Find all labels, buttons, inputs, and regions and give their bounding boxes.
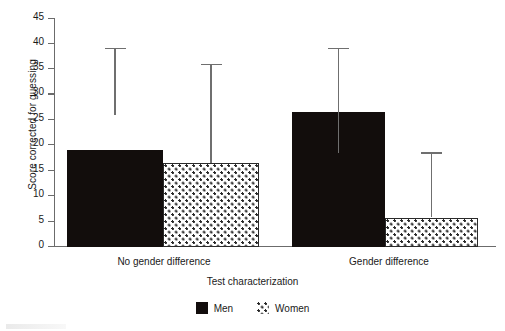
error-bar-women-gender-difference: [431, 152, 432, 217]
y-tick-35: 35: [48, 68, 54, 69]
y-tick-label-5: 5: [38, 214, 44, 225]
y-tick-label-15: 15: [33, 163, 44, 174]
error-bar-women-no-gender-difference: [210, 64, 211, 163]
y-tick-45: 45: [48, 18, 54, 19]
chart-legend: Men Women: [0, 302, 505, 314]
y-tick-25: 25: [48, 119, 54, 120]
legend-label-women: Women: [275, 303, 309, 314]
x-axis-title: Test characterization: [0, 276, 505, 287]
error-bar-cap-women-gender-difference: [421, 152, 442, 153]
bar-chart-figure: Score corrected for guessing 0 5 10 15 2…: [0, 0, 505, 331]
y-tick-5: 5: [48, 221, 54, 222]
y-axis-line: [54, 18, 55, 247]
caption-fragment: [6, 324, 66, 329]
x-category-label-no-gender-difference: No gender difference: [117, 256, 210, 267]
legend-label-men: Men: [214, 303, 233, 314]
bar-women-no-gender-difference: [163, 163, 259, 247]
y-tick-label-35: 35: [33, 61, 44, 72]
error-bar-cap-men-gender-difference: [328, 48, 349, 49]
y-tick-15: 15: [48, 170, 54, 171]
plot-area: 0 5 10 15 20 25 30 35 40 45: [54, 18, 496, 247]
y-tick-label-10: 10: [33, 188, 44, 199]
error-bar-men-no-gender-difference: [114, 48, 115, 115]
legend-swatch-women-icon: [257, 302, 269, 314]
y-tick-label-25: 25: [33, 112, 44, 123]
legend-item-women: Women: [257, 302, 309, 314]
y-tick-10: 10: [48, 195, 54, 196]
error-bar-cap-men-no-gender-difference: [105, 48, 126, 49]
y-tick-20: 20: [48, 144, 54, 145]
y-tick-0: 0: [48, 246, 54, 247]
y-tick-label-20: 20: [33, 137, 44, 148]
bar-men-no-gender-difference: [67, 150, 163, 247]
x-category-label-gender-difference: Gender difference: [349, 256, 429, 267]
error-bar-men-gender-difference: [338, 48, 339, 153]
y-tick-40: 40: [48, 43, 54, 44]
y-tick-label-45: 45: [33, 11, 44, 22]
y-tick-label-0: 0: [38, 239, 44, 250]
legend-swatch-men-icon: [196, 302, 208, 314]
y-tick-30: 30: [48, 93, 54, 94]
legend-item-men: Men: [196, 302, 233, 314]
bar-women-gender-difference: [385, 218, 478, 248]
y-tick-label-30: 30: [33, 86, 44, 97]
error-bar-cap-women-no-gender-difference: [201, 64, 222, 65]
y-tick-label-40: 40: [33, 36, 44, 47]
